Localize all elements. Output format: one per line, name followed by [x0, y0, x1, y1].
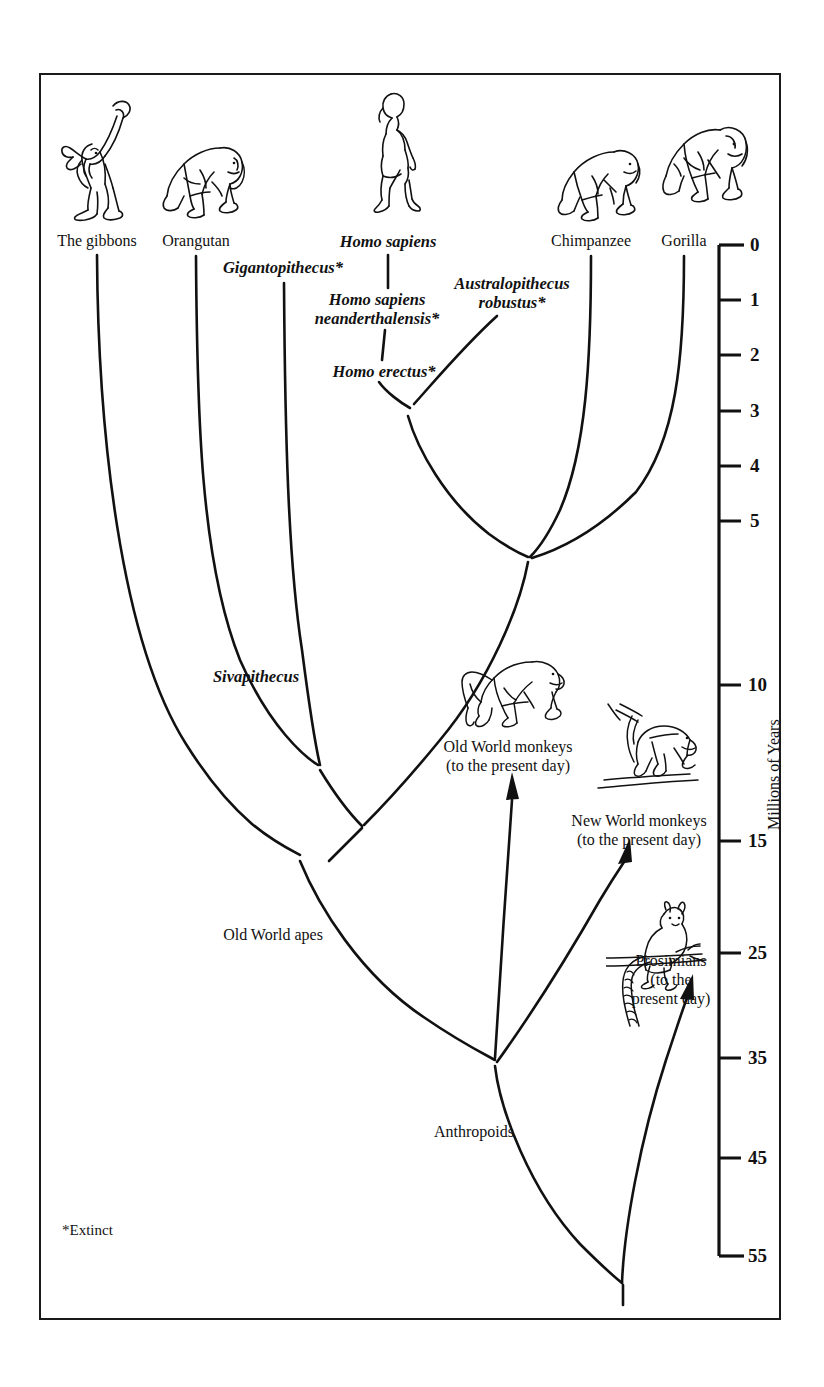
axis-tick-label: 45: [748, 1147, 767, 1169]
label-anthropoids: Anthropoids: [434, 1123, 514, 1142]
label-old-world-monkeys: Old World monkeys (to the present day): [443, 738, 572, 776]
figure-page: 0 1 2 3 4 5 10 15 25 35 45 55 Millions o…: [0, 0, 824, 1387]
label-chimpanzee: Chimpanzee: [551, 232, 631, 251]
label-prosimians: Prosimians (to the present day): [632, 952, 711, 1009]
label-gibbons: The gibbons: [57, 232, 137, 251]
label-gigantopithecus: Gigantopithecus*: [223, 258, 343, 277]
orangutan-icon: [150, 138, 250, 222]
axis-tick-label: 35: [748, 1047, 767, 1069]
extinct-footnote: *Extinct: [62, 1222, 113, 1239]
label-new-world-monkeys: New World monkeys (to the present day): [571, 812, 706, 850]
axis-tick-label: 15: [748, 830, 767, 852]
label-australopithecus-robustus: Australopithecus robustus*: [454, 274, 570, 313]
new-world-monkey-icon: [594, 702, 706, 794]
axis-tick-label: 55: [748, 1245, 767, 1267]
label-homo-sapiens-neanderthalensis: Homo sapiens neanderthalensis*: [315, 290, 440, 329]
axis-tick-label: 2: [750, 344, 760, 366]
axis-tick-label: 5: [750, 510, 760, 532]
label-sivapithecus: Sivapithecus: [213, 667, 299, 686]
axis-tick-label: 10: [748, 674, 767, 696]
gorilla-icon: [648, 118, 754, 224]
label-homo-erectus: Homo erectus*: [332, 362, 435, 381]
human-icon: [355, 88, 427, 218]
axis-tick-label: 3: [750, 400, 760, 422]
axis-tick-label: 25: [748, 942, 767, 964]
label-orangutan: Orangutan: [162, 232, 230, 251]
axis-title: Millions of Years: [765, 719, 783, 830]
label-homo-sapiens: Homo sapiens: [340, 232, 437, 251]
axis-tick-label: 4: [750, 455, 760, 477]
figure-frame: [39, 73, 781, 1320]
gibbon-icon: [55, 94, 147, 224]
axis-tick-label: 0: [750, 234, 760, 256]
label-gorilla: Gorilla: [661, 232, 706, 251]
old-world-monkey-icon: [456, 650, 566, 736]
axis-tick-label: 1: [750, 289, 760, 311]
label-old-world-apes: Old World apes: [223, 926, 323, 945]
chimpanzee-icon: [548, 140, 644, 224]
